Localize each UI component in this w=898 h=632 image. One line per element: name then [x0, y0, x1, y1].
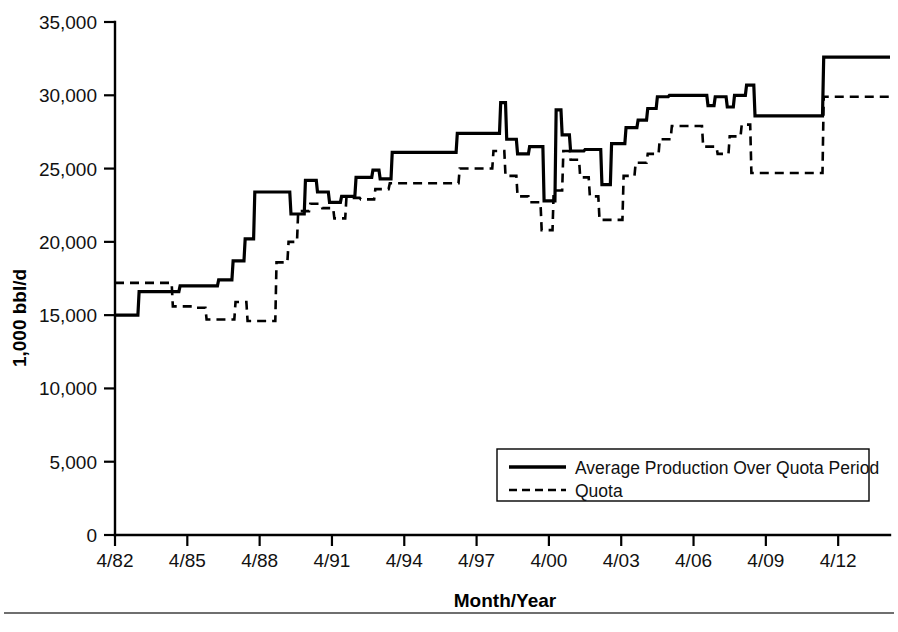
y-tick-label: 30,000: [39, 85, 97, 106]
y-tick-label: 20,000: [39, 232, 97, 253]
y-tick-label: 35,000: [39, 12, 97, 33]
x-tick-label: 4/03: [603, 550, 640, 571]
oil-production-quota-chart: 05,00010,00015,00020,00025,00030,00035,0…: [0, 0, 898, 632]
x-tick-label: 4/91: [313, 550, 350, 571]
x-tick-label: 4/12: [820, 550, 857, 571]
legend-label-quota: Quota: [575, 481, 623, 501]
y-tick-label: 15,000: [39, 305, 97, 326]
x-tick-label: 4/06: [675, 550, 712, 571]
x-tick-label: 4/09: [747, 550, 784, 571]
x-axis-title: Month/Year: [454, 590, 557, 611]
y-tick-label: 0: [86, 525, 97, 546]
x-tick-label: 4/97: [458, 550, 495, 571]
chart-legend: Average Production Over Quota Period Quo…: [497, 449, 879, 501]
y-axis-title: 1,000 bbl/d: [9, 269, 30, 367]
x-tick-label: 4/82: [97, 550, 134, 571]
y-tick-label: 25,000: [39, 159, 97, 180]
x-tick-label: 4/85: [169, 550, 206, 571]
x-tick-label: 4/00: [530, 550, 567, 571]
y-tick-label: 5,000: [49, 452, 97, 473]
x-tick-label: 4/94: [386, 550, 423, 571]
y-tick-label: 10,000: [39, 378, 97, 399]
x-tick-label: 4/88: [241, 550, 278, 571]
legend-label-average-production: Average Production Over Quota Period: [575, 458, 879, 478]
